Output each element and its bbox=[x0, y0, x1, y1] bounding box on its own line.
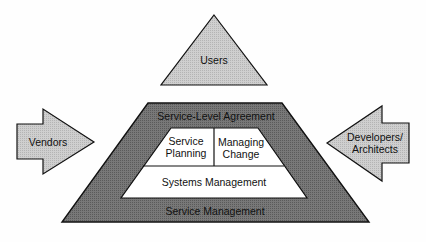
service-planning-line2: Planning bbox=[166, 147, 207, 159]
developers-label-line2: Architects bbox=[347, 143, 403, 155]
users-triangle bbox=[161, 15, 267, 85]
users-label: Users bbox=[200, 54, 227, 66]
service-management-diagram: Users Vendors Developers/ Architects Ser… bbox=[0, 0, 426, 242]
service-management-label: Service Management bbox=[165, 205, 264, 217]
service-planning-label: Service Planning bbox=[166, 135, 207, 159]
service-level-agreement-label: Service-Level Agreement bbox=[157, 110, 274, 122]
managing-change-line2: Change bbox=[218, 148, 264, 160]
systems-management-label: Systems Management bbox=[162, 176, 266, 188]
managing-change-label: Managing Change bbox=[218, 136, 264, 160]
developers-label-line1: Developers/ bbox=[347, 131, 403, 143]
service-planning-line1: Service bbox=[166, 135, 207, 147]
developers-label: Developers/ Architects bbox=[347, 131, 403, 155]
vendors-label: Vendors bbox=[29, 136, 68, 148]
managing-change-line1: Managing bbox=[218, 136, 264, 148]
